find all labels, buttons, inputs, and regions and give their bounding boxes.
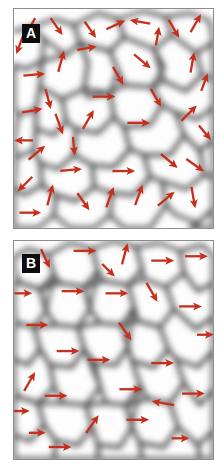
panel-b-micrograph [14,241,213,459]
panel-a-label: A [23,25,39,42]
panel-b-label: B [23,255,39,272]
figure-container: A [0,0,224,466]
panel-a-micrograph [14,9,213,228]
panel-b: B [13,240,214,460]
panel-a: A [13,8,214,229]
